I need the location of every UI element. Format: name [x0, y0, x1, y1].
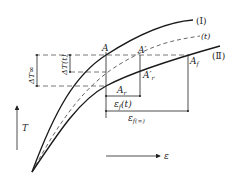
- point-A-r-prime-label: A′r: [142, 70, 156, 81]
- curve-II-label: (Ⅱ): [212, 51, 225, 61]
- eps-f-inf-label: εf(∞): [128, 113, 145, 125]
- creep-curve-diagram: (Ⅰ) (t) (Ⅱ) A A′ Af A′r Ar ΔT∞ ΔT(t) εf(…: [0, 0, 237, 182]
- delta-T-t-label: ΔT(t): [60, 54, 69, 76]
- point-A-label: A: [101, 43, 109, 53]
- curve-t-label: (t): [201, 32, 210, 41]
- point-A-f-label: Af: [189, 56, 201, 68]
- delta-T-inf-label: ΔT∞: [27, 66, 36, 85]
- point-A-prime-label: A′: [137, 45, 147, 55]
- point-A-r-label: Ar: [116, 85, 128, 96]
- epsilon-axis-label: ε: [164, 151, 169, 161]
- eps-f-t-label: εf(t): [114, 99, 132, 111]
- T-axis-label: T: [22, 123, 29, 133]
- curve-I-label: (Ⅰ): [196, 16, 207, 26]
